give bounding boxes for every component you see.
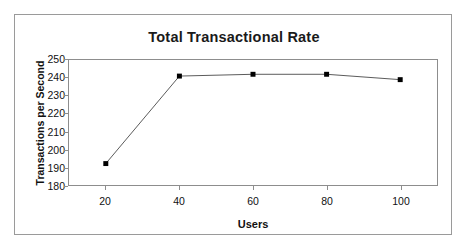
x-axis-tick-label: 100 [381,195,421,207]
plot-area: 20, 19240, 24160, 24280, 242100, 239 [68,59,438,186]
x-axis-tick-marks [68,186,438,191]
x-axis-tick-mark [179,186,180,190]
data-point-marker: 40, 241 [177,74,182,79]
x-axis-tick-mark [401,186,402,190]
x-axis-tick-label: 80 [307,195,347,207]
chart-title: Total Transactional Rate [15,29,453,45]
y-axis-tick-label: 210 [39,127,65,137]
y-axis-tick-label: 220 [39,108,65,118]
chart-container: Total Transactional Rate Transactions pe… [0,0,468,249]
x-axis-title: Users [68,218,438,230]
data-point-marker: 100, 239 [398,77,403,82]
data-point-marker: 20, 192 [103,161,108,166]
series-line [106,74,400,163]
x-axis-tick-label: 60 [233,195,273,207]
y-axis-tick-label: 190 [39,163,65,173]
x-axis-tick-label: 20 [85,195,125,207]
x-axis-tick-label: 40 [159,195,199,207]
y-axis-tick-label: 240 [39,72,65,82]
y-axis-tick-label: 250 [39,54,65,64]
x-axis-tick-mark [105,186,106,190]
y-axis-tick-label: 200 [39,145,65,155]
x-axis-tick-labels: 20406080100 [68,195,438,209]
data-series-line: 20, 19240, 24160, 24280, 242100, 239 [69,60,437,185]
y-axis-tick-label: 180 [39,181,65,191]
y-axis-tick-labels: 250240230220210200190180 [35,59,65,186]
data-point-marker: 80, 242 [324,72,329,77]
x-axis-tick-mark [253,186,254,190]
chart-frame: Total Transactional Rate Transactions pe… [14,14,452,235]
x-axis-tick-mark [327,186,328,190]
data-point-marker: 60, 242 [251,72,256,77]
y-axis-tick-label: 230 [39,90,65,100]
